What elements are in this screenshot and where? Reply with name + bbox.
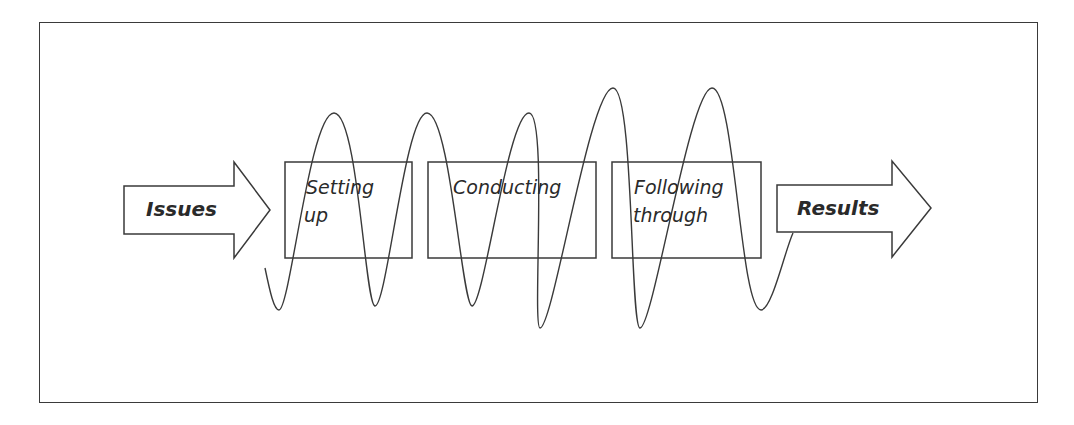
oscillating-wave — [265, 88, 793, 328]
diagram-canvas: Issues Setting up Conducting Following t… — [0, 0, 1074, 425]
stage-label-following: Following — [634, 177, 724, 199]
stage-label-setting: Setting — [306, 177, 374, 199]
issues-label: Issues — [146, 198, 217, 221]
stage-label-through: through — [633, 205, 708, 227]
stage-label-conducting: Conducting — [453, 177, 561, 199]
results-label: Results — [797, 197, 879, 220]
stage-label-up: up — [304, 205, 328, 227]
